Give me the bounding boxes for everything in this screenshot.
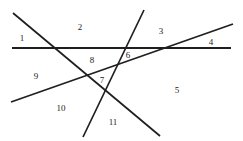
- region-label-2: 2: [78, 23, 83, 32]
- region-label-9: 9: [34, 72, 39, 81]
- region-label-6: 6: [126, 51, 131, 60]
- region-label-3: 3: [159, 27, 164, 36]
- region-label-11: 11: [109, 118, 118, 127]
- region-label-8: 8: [90, 56, 95, 65]
- region-label-10: 10: [57, 104, 66, 113]
- region-label-5: 5: [175, 86, 180, 95]
- region-label-1: 1: [20, 34, 25, 43]
- line-arrangement-figure: 1234567891011: [0, 0, 243, 141]
- region-label-7: 7: [100, 76, 105, 85]
- ascending-line: [11, 24, 233, 102]
- region-label-4: 4: [209, 38, 214, 47]
